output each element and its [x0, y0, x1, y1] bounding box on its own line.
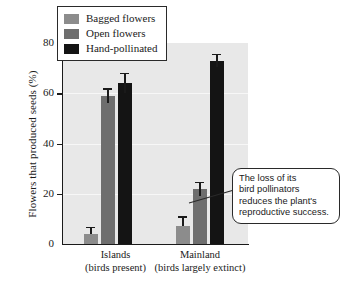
- legend-item-open-flowers: Open flowers: [64, 26, 157, 41]
- callout-leader-line: [188, 186, 236, 208]
- callout-line-3: reduces the plant's: [239, 196, 334, 207]
- bar-mainland-hand: [210, 61, 224, 244]
- bar-islands-hand: [118, 83, 132, 244]
- callout-annotation: The loss of its bird pollinators reduces…: [232, 168, 340, 224]
- x-axis-line: [62, 244, 249, 245]
- bar-chart-figure: 80 60 40 20 0 Flowers that produced seed…: [0, 0, 350, 287]
- legend-item-bagged-flowers: Bagged flowers: [64, 11, 157, 26]
- y-tick-60: [57, 93, 62, 94]
- errorcap-islands-bagged: [86, 227, 95, 228]
- legend-swatch-icon-open: [64, 29, 79, 39]
- y-tick-40: [57, 144, 62, 145]
- legend-label-open: Open flowers: [86, 28, 146, 39]
- bar-islands-open: [101, 96, 115, 244]
- callout-line-4: reproductive success.: [239, 207, 334, 218]
- errorcap-mainland-hand: [212, 54, 221, 55]
- legend-label-hand: Hand-pollinated: [86, 43, 157, 54]
- callout-line-2: bird pollinators: [239, 184, 334, 195]
- bar-islands-bagged: [84, 234, 98, 244]
- legend-label-bagged: Bagged flowers: [86, 13, 155, 24]
- errorcap-islands-hand: [120, 73, 129, 74]
- y-axis-title: Flowers that produced seeds (%): [26, 39, 38, 249]
- errorbar-mainland-bagged: [182, 216, 183, 226]
- legend-swatch-icon-hand: [64, 44, 79, 54]
- x-group-label-mainland: Mainland (birds largely extinct): [140, 249, 260, 274]
- x-group-label-mainland-line2: (birds largely extinct): [140, 262, 260, 275]
- errorcap-mainland-bagged: [178, 216, 187, 217]
- errorcap-mainland-open: [195, 182, 204, 183]
- errorbar-mainland-hand: [216, 54, 217, 67]
- y-tick-20: [57, 194, 62, 195]
- callout-line-1: The loss of its: [239, 173, 334, 184]
- errorbar-islands-open: [107, 88, 108, 103]
- y-axis-line: [62, 42, 63, 245]
- bar-mainland-bagged: [176, 226, 190, 244]
- errorbar-islands-hand: [124, 73, 125, 93]
- legend: Bagged flowers Open flowers Hand-pollina…: [57, 6, 167, 61]
- legend-item-hand-pollinated: Hand-pollinated: [64, 41, 157, 56]
- errorcap-islands-open: [103, 88, 112, 89]
- legend-swatch-icon-bagged: [64, 14, 79, 24]
- x-group-label-mainland-line1: Mainland: [140, 249, 260, 262]
